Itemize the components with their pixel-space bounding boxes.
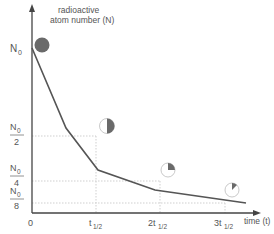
pie-quarter-icon [161, 163, 175, 177]
svg-text:0: 0 [17, 168, 21, 175]
y-tick-n0-quarter: N 0 4 [10, 163, 24, 188]
x-tick-3t-half: 3t 1/2 [214, 218, 233, 230]
decay-curve [32, 48, 246, 203]
y-axis-arrow-icon [29, 4, 35, 12]
svg-text:0: 0 [17, 191, 21, 198]
y-tick-n0-eighth: N 0 8 [10, 186, 24, 211]
pie-half-icon [100, 119, 115, 134]
x-tick-2t-half: 2t 1/2 [148, 218, 167, 230]
svg-text:8: 8 [14, 201, 19, 211]
svg-text:2t: 2t [148, 218, 156, 228]
y-tick-n0: N 0 [10, 43, 22, 56]
decay-chart: radioactive atom number (N) time (t) N 0… [0, 0, 274, 234]
svg-text:N: N [10, 163, 17, 173]
svg-text:N: N [10, 122, 17, 132]
svg-text:3t: 3t [214, 218, 222, 228]
svg-text:t: t [89, 218, 92, 228]
svg-text:N: N [10, 43, 17, 54]
svg-text:1/2: 1/2 [93, 223, 102, 230]
pie-full-icon [35, 38, 50, 53]
axes [32, 8, 256, 213]
x-tick-origin: 0 [28, 218, 33, 228]
reference-grid [32, 136, 225, 213]
y-axis-title-line2: atom number (N) [50, 15, 114, 25]
x-axis-title: time (t) [244, 216, 271, 226]
svg-text:2: 2 [14, 137, 19, 147]
y-tick-n0-half: N 0 2 [10, 122, 24, 147]
svg-text:1/2: 1/2 [158, 223, 167, 230]
x-tick-t-half: t 1/2 [89, 218, 102, 230]
svg-text:N: N [10, 186, 17, 196]
pie-eighth-icon [225, 183, 239, 197]
svg-text:0: 0 [18, 49, 22, 56]
svg-text:0: 0 [17, 127, 21, 134]
y-axis-title-line1: radioactive [58, 5, 99, 15]
svg-text:1/2: 1/2 [224, 223, 233, 230]
